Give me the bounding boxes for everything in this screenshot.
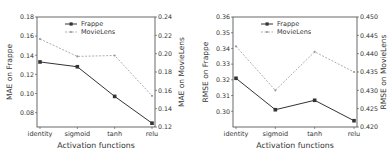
series-line-frappe (236, 78, 354, 120)
y-tick-label-left: 0.16 (20, 32, 34, 39)
chart-panel-2: 0.300.310.320.330.340.350.360.4200.4250.… (201, 13, 387, 150)
legend-marker (70, 31, 72, 33)
y-axis-label-right: MAE on MovieLens (177, 37, 186, 107)
x-axis-label: Activation functions (57, 141, 134, 150)
legend-marker (266, 22, 269, 25)
y-axis-label-left: MAE on Frappe (5, 44, 14, 100)
y-tick-label-left: 0.36 (216, 13, 230, 20)
y-axis-label-right: RMSE on MovieLens (379, 35, 387, 110)
data-point-marker (76, 65, 80, 69)
y-tick-label-left: 0.14 (20, 52, 34, 59)
y-tick-label-left: 0.12 (20, 71, 34, 78)
legend-marker (70, 22, 73, 25)
figure: 0.080.100.120.140.160.180.120.140.160.18… (0, 0, 387, 153)
series-line-movielens (236, 46, 354, 90)
data-point-marker (76, 55, 78, 57)
data-point-marker (38, 60, 42, 64)
y-tick-label-left: 0.33 (216, 60, 230, 67)
data-point-marker (314, 51, 316, 53)
data-point-marker (352, 119, 356, 123)
x-tick-label: relu (348, 130, 360, 138)
x-axis-label: Activation functions (256, 141, 333, 150)
y-tick-label-right: 0.24 (158, 13, 172, 20)
data-point-marker (151, 95, 153, 97)
y-tick-label-left: 0.08 (20, 109, 34, 116)
legend: FrappeMovieLens (261, 20, 312, 36)
y-tick-label-left: 0.30 (216, 108, 230, 115)
legend-label: MovieLens (277, 28, 312, 36)
y-tick-label-right: 0.12 (158, 123, 172, 130)
x-tick-label: sigmoid (65, 130, 91, 138)
y-tick-label-right: 0.14 (158, 105, 172, 112)
x-tick-label: tanh (107, 130, 122, 138)
y-tick-label-left: 0.35 (216, 29, 230, 36)
y-tick-label-right: 0.440 (360, 50, 378, 57)
y-tick-label-left: 0.10 (20, 90, 34, 97)
x-tick-label: sigmoid (263, 130, 289, 138)
y-tick-label-left: 0.31 (216, 92, 230, 99)
data-point-marker (39, 38, 41, 40)
y-tick-label-right: 0.20 (158, 50, 172, 57)
y-tick-label-left: 0.32 (216, 76, 230, 83)
data-point-marker (274, 108, 278, 112)
data-point-marker (113, 95, 117, 99)
legend-label: MovieLens (81, 28, 116, 36)
y-tick-label-right: 0.425 (360, 105, 378, 112)
series-line-movielens (40, 39, 152, 96)
y-tick-label-right: 0.16 (158, 87, 172, 94)
y-axis-label-left: RMSE on Frappe (201, 41, 210, 102)
data-point-marker (114, 54, 116, 56)
figure-canvas: 0.080.100.120.140.160.180.120.140.160.18… (0, 0, 387, 153)
legend: FrappeMovieLens (65, 20, 116, 36)
y-tick-label-right: 0.450 (360, 13, 378, 20)
x-tick-label: tanh (307, 130, 322, 138)
data-point-marker (235, 45, 237, 47)
chart-panel-1: 0.080.100.120.140.160.180.120.140.160.18… (5, 13, 186, 150)
data-point-marker (313, 98, 317, 102)
x-tick-label: identity (224, 130, 249, 138)
y-tick-label-left: 0.18 (20, 13, 34, 20)
data-point-marker (234, 76, 238, 80)
y-tick-label-right: 0.430 (360, 87, 378, 94)
legend-label: Frappe (277, 20, 299, 28)
data-point-marker (150, 121, 154, 125)
y-tick-label-right: 0.435 (360, 68, 378, 75)
y-tick-label-right: 0.18 (158, 68, 172, 75)
data-point-marker (353, 71, 355, 73)
y-tick-label-right: 0.22 (158, 32, 172, 39)
legend-label: Frappe (81, 20, 103, 28)
x-tick-label: relu (146, 130, 158, 138)
series-line-frappe (40, 62, 152, 123)
data-point-marker (274, 89, 276, 91)
x-tick-label: identity (28, 130, 53, 138)
y-tick-label-left: 0.34 (216, 45, 230, 52)
legend-marker (266, 31, 268, 33)
y-tick-label-right: 0.445 (360, 32, 378, 39)
y-tick-label-right: 0.420 (360, 123, 378, 130)
